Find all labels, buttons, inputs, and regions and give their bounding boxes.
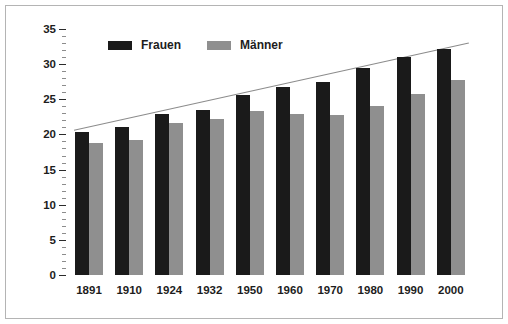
y-axis-tick-minor <box>62 106 66 107</box>
bar-frauen-1970 <box>316 82 330 275</box>
bar-männer-1960 <box>290 114 304 275</box>
bar-frauen-1990 <box>397 57 411 275</box>
bar-männer-2000 <box>451 80 465 275</box>
y-axis-tick-major <box>59 275 66 276</box>
x-axis-tick-label: 1950 <box>237 284 263 296</box>
bar-männer-1891 <box>89 143 103 275</box>
chart-legend: FrauenMänner <box>108 38 283 52</box>
y-axis-tick-minor <box>62 43 66 44</box>
y-axis-tick-major <box>59 29 66 30</box>
bar-frauen-1910 <box>115 127 129 275</box>
y-axis-tick-minor <box>62 85 66 86</box>
y-axis-tick-minor <box>62 148 66 149</box>
bar-frauen-1960 <box>276 87 290 275</box>
plot-area: 05101520253035 1891191019241932195019601… <box>68 29 480 275</box>
y-axis-tick-major <box>59 170 66 171</box>
y-axis-tick-minor <box>62 219 66 220</box>
y-axis-tick-label: 10 <box>43 199 56 211</box>
y-axis-tick-minor <box>62 141 66 142</box>
y-axis-tick-label: 25 <box>43 93 56 105</box>
legend-label: Männer <box>240 38 283 52</box>
bar-frauen-2000 <box>437 49 451 275</box>
y-axis-tick-label: 20 <box>43 128 56 140</box>
y-axis-tick-label: 15 <box>43 164 56 176</box>
y-axis-tick-minor <box>62 127 66 128</box>
y-axis-tick-minor <box>62 156 66 157</box>
y-axis-tick-minor <box>62 254 66 255</box>
y-axis-tick-major <box>59 240 66 241</box>
y-axis-tick-label: 0 <box>50 269 56 281</box>
legend-entry-frauen: Frauen <box>108 38 181 52</box>
y-axis-tick-minor <box>62 226 66 227</box>
bar-männer-1924 <box>169 123 183 275</box>
y-axis-tick-minor <box>62 57 66 58</box>
x-axis-tick-label: 1960 <box>277 284 303 296</box>
y-axis-tick-minor <box>62 120 66 121</box>
x-axis-tick-label: 1924 <box>157 284 183 296</box>
x-axis-tick-label: 1891 <box>76 284 102 296</box>
y-axis-tick-minor <box>62 191 66 192</box>
legend-label: Frauen <box>141 38 181 52</box>
bar-frauen-1891 <box>75 132 89 275</box>
y-axis-tick-major <box>59 64 66 65</box>
y-axis-tick-minor <box>62 233 66 234</box>
bar-frauen-1950 <box>236 95 250 275</box>
y-axis-tick-label: 35 <box>43 23 56 35</box>
y-axis-tick-minor <box>62 212 66 213</box>
bar-frauen-1932 <box>196 110 210 275</box>
bar-männer-1990 <box>411 94 425 275</box>
y-axis-tick-major <box>59 205 66 206</box>
y-axis-tick-minor <box>62 184 66 185</box>
y-axis-tick-minor <box>62 261 66 262</box>
bar-männer-1932 <box>210 119 224 275</box>
bar-männer-1980 <box>370 106 384 275</box>
x-axis-tick-label: 1980 <box>358 284 384 296</box>
x-axis-tick-label: 1990 <box>398 284 424 296</box>
bar-frauen-1924 <box>155 114 169 275</box>
y-axis-tick-minor <box>62 36 66 37</box>
x-axis-tick-label: 1970 <box>317 284 343 296</box>
chart-figure: Fernere Lebenserwartung in Jahren 051015… <box>0 0 508 324</box>
y-axis-tick-label: 5 <box>50 234 56 246</box>
bar-männer-1950 <box>250 111 264 275</box>
x-axis-tick-label: 1910 <box>116 284 142 296</box>
x-axis-tick-label: 2000 <box>438 284 464 296</box>
bar-frauen-1980 <box>356 68 370 275</box>
x-axis-tick-label: 1932 <box>197 284 223 296</box>
bar-männer-1970 <box>330 115 344 275</box>
y-axis-tick-major <box>59 134 66 135</box>
y-axis-tick-minor <box>62 268 66 269</box>
legend-swatch-icon <box>207 41 231 50</box>
y-axis-tick-minor <box>62 247 66 248</box>
y-axis-tick-minor <box>62 177 66 178</box>
y-axis-tick-minor <box>62 78 66 79</box>
y-axis-tick-minor <box>62 71 66 72</box>
y-axis-tick-minor <box>62 92 66 93</box>
y-axis-tick-minor <box>62 50 66 51</box>
y-axis-tick-minor <box>62 198 66 199</box>
legend-entry-männer: Männer <box>207 38 283 52</box>
y-axis-tick-major <box>59 99 66 100</box>
y-axis-tick-label: 30 <box>43 58 56 70</box>
bar-männer-1910 <box>129 140 143 275</box>
legend-swatch-icon <box>108 41 132 50</box>
y-axis-tick-minor <box>62 113 66 114</box>
y-axis-tick-minor <box>62 163 66 164</box>
